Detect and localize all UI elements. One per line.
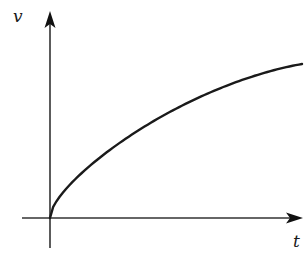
x-axis-label: t bbox=[293, 233, 300, 250]
velocity-time-graph bbox=[0, 0, 308, 253]
y-axis-label: v bbox=[13, 8, 23, 25]
velocity-curve bbox=[50, 64, 302, 218]
